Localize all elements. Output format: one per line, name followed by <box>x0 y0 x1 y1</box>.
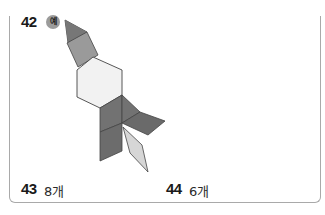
problem-43-answer: 8개 <box>44 181 64 200</box>
problem-44-number: 44 <box>166 180 182 197</box>
problem-43-number: 43 <box>21 180 37 197</box>
problem-44-answer: 6개 <box>189 181 209 200</box>
thin-rhombus <box>123 127 148 172</box>
